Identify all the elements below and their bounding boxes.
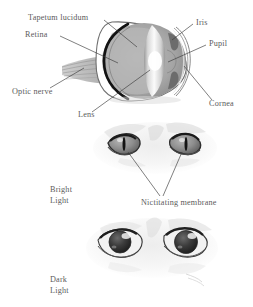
bright-light-cat-face	[93, 122, 217, 196]
label-bright-line2: Light	[50, 195, 72, 206]
bright-right-pupil-slit	[185, 137, 188, 151]
leader-cornea	[184, 66, 212, 100]
label-tapetum-lucidum: Tapetum lucidum	[28, 13, 88, 23]
label-dark-light: Dark Light	[50, 274, 69, 296]
label-cornea: Cornea	[209, 99, 234, 109]
eye-anatomy-figure: Tapetum lucidum Retina Iris Pupil Optic …	[0, 0, 253, 307]
label-lens: Lens	[78, 110, 95, 120]
label-retina: Retina	[25, 30, 48, 40]
label-iris: Iris	[196, 18, 208, 28]
eye-cross-section-diagram	[62, 22, 190, 104]
label-nictitating-membrane: Nictitating membrane	[141, 198, 217, 208]
dark-light-cat-face	[86, 218, 218, 287]
label-dark-line2: Light	[50, 285, 69, 296]
label-optic-nerve: Optic nerve	[12, 87, 53, 97]
label-bright-line1: Bright	[50, 184, 72, 195]
label-pupil: Pupil	[209, 39, 227, 49]
label-bright-light: Bright Light	[50, 184, 72, 206]
bright-left-pupil-slit	[123, 137, 126, 151]
bright-left-eye	[108, 134, 140, 155]
label-dark-line1: Dark	[50, 274, 69, 285]
